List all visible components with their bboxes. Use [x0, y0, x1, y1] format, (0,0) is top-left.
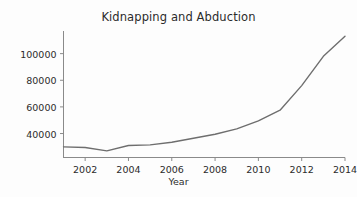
y-tick-label: 40000	[26, 128, 56, 139]
y-tick-label: 100000	[20, 48, 56, 59]
x-tick-label: 2006	[160, 164, 184, 175]
axis-spines	[64, 31, 346, 158]
chart-figure: Kidnapping and Abduction 400006000080000…	[0, 0, 357, 197]
x-tick-label: 2012	[290, 164, 314, 175]
x-tick-label: 2002	[73, 164, 97, 175]
y-tick-marks	[60, 54, 64, 134]
y-tick-label: 80000	[26, 75, 56, 86]
x-tick-label: 2008	[203, 164, 227, 175]
x-tick-label: 2014	[333, 164, 357, 175]
plot-area: 400006000080000100000 200220042006200820…	[0, 0, 357, 197]
x-tick-marks	[85, 158, 345, 162]
x-axis-label: Year	[0, 176, 357, 187]
x-tick-label: 2010	[246, 164, 270, 175]
y-tick-label: 60000	[26, 101, 56, 112]
data-series-line	[64, 36, 346, 151]
x-tick-label: 2004	[116, 164, 140, 175]
